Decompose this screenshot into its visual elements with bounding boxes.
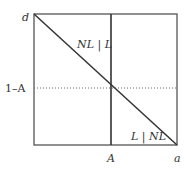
diagram-canvas: d 1–A A a NL | L L | NL — [0, 0, 189, 170]
region-label-lower: L | NL — [130, 130, 166, 144]
label-a: a — [174, 152, 181, 165]
label-A: A — [106, 152, 115, 165]
region-label-upper: NL | L — [76, 38, 112, 52]
label-1-minus-A: 1–A — [5, 82, 26, 95]
diagonal-line — [34, 14, 177, 145]
label-d: d — [22, 11, 29, 24]
